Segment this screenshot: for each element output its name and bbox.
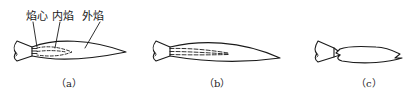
nozzle-a-icon xyxy=(14,41,32,61)
nozzle-c-icon xyxy=(315,41,334,62)
caption-b: （b） xyxy=(204,78,230,90)
flame-a xyxy=(14,22,126,61)
flame-c xyxy=(315,41,402,63)
inner-flame-a xyxy=(37,47,72,56)
label-outer-flame: 外焰 xyxy=(82,11,104,23)
label-flame-core: 焰心 xyxy=(26,11,48,23)
outer-flame-a xyxy=(32,41,126,59)
nozzle-b-icon xyxy=(153,41,170,61)
flame-b xyxy=(153,41,280,61)
caption-a: （a） xyxy=(56,78,82,90)
inner-flame-b xyxy=(170,48,228,53)
flame-core-a xyxy=(32,49,37,54)
caption-c: （c） xyxy=(356,78,382,90)
outer-flame-c xyxy=(334,47,402,63)
label-inner-flame: 内焰 xyxy=(52,11,74,23)
